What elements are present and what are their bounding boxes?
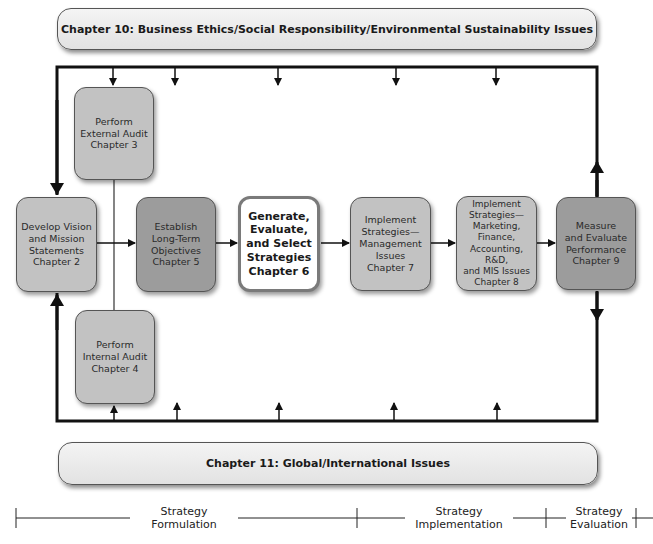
box-chapter-4-label: Perform Internal Audit Chapter 4 xyxy=(83,339,148,375)
box-chapter-2: Develop Vision and Mission Statements Ch… xyxy=(16,197,97,292)
box-chapter-4: Perform Internal Audit Chapter 4 xyxy=(75,310,155,404)
box-chapter-7-label: Implement Strategies— Management Issues … xyxy=(359,214,422,273)
box-chapter-6: Generate, Evaluate, and Select Strategie… xyxy=(238,196,320,292)
phase-formulation: Strategy Formulation xyxy=(130,505,238,531)
box-chapter-5-label: Establish Long-Term Objectives Chapter 5 xyxy=(151,221,201,269)
chapter-11-banner: Chapter 11: Global/International Issues xyxy=(58,442,598,485)
box-chapter-3-label: Perform External Audit Chapter 3 xyxy=(80,116,147,152)
box-chapter-7: Implement Strategies— Management Issues … xyxy=(350,197,431,291)
box-chapter-8-label: Implement Strategies— Marketing, Finance… xyxy=(460,199,533,289)
phase-evaluation: Strategy Evaluation xyxy=(566,505,632,531)
chapter-10-banner: Chapter 10: Business Ethics/Social Respo… xyxy=(57,8,597,50)
chapter-10-label: Chapter 10: Business Ethics/Social Respo… xyxy=(61,23,593,36)
box-chapter-9-label: Measure and Evaluate Performance Chapter… xyxy=(565,220,627,268)
box-chapter-8: Implement Strategies— Marketing, Finance… xyxy=(456,196,537,291)
box-chapter-5: Establish Long-Term Objectives Chapter 5 xyxy=(136,197,216,292)
box-chapter-2-label: Develop Vision and Mission Statements Ch… xyxy=(21,221,91,269)
box-chapter-6-label: Generate, Evaluate, and Select Strategie… xyxy=(246,210,311,279)
box-chapter-9: Measure and Evaluate Performance Chapter… xyxy=(556,197,636,290)
chapter-11-label: Chapter 11: Global/International Issues xyxy=(206,457,450,470)
phase-implementation: Strategy Implementation xyxy=(405,505,513,531)
box-chapter-3: Perform External Audit Chapter 3 xyxy=(74,87,154,180)
